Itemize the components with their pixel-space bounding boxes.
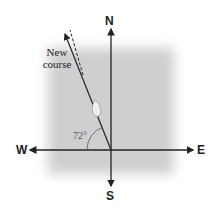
angle-arc <box>87 127 103 150</box>
west-label: W <box>16 143 27 157</box>
label-line-2: course <box>43 58 72 70</box>
north-label: N <box>105 14 114 28</box>
east-label: E <box>197 143 205 157</box>
south-label: S <box>106 189 114 203</box>
label-line-1: New <box>47 46 68 58</box>
compass-axes <box>0 0 214 215</box>
angle-label: 72° <box>73 130 87 141</box>
boat-icon <box>92 100 101 116</box>
compass-diagram: N S W E New course 72° <box>0 0 214 215</box>
new-course-label: New course <box>40 46 74 70</box>
